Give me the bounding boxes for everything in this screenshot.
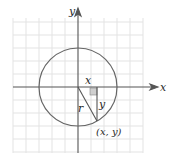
y-axis-label: y [68, 5, 76, 18]
radius-label: r [78, 102, 84, 115]
horizontal-leg-label: x [85, 74, 92, 87]
vertical-leg-label: y [98, 98, 106, 111]
x-axis-label: x [160, 81, 167, 94]
point-label: (x, y) [96, 126, 122, 137]
right-angle-marker [90, 88, 97, 95]
circle-diagram: y x x y r (x, y) [0, 0, 174, 163]
